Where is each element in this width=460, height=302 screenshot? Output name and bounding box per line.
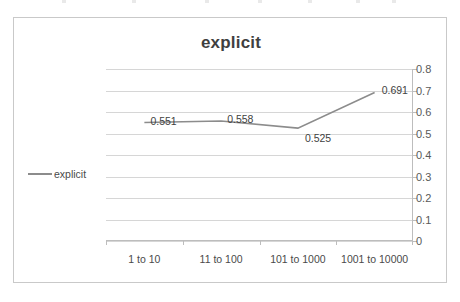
- x-axis-tick: [260, 241, 261, 245]
- y-axis-tick-label: 0.7: [416, 85, 431, 97]
- data-point-label: 0.558: [227, 113, 253, 125]
- y-axis-tick-label: 0.4: [416, 149, 431, 161]
- data-point-label: 0.691: [382, 84, 408, 96]
- y-axis-tick-label: 0.5: [416, 128, 431, 140]
- chart-title: explicit: [14, 33, 448, 53]
- y-axis-labels: 0.80.70.60.50.40.30.20.10: [416, 69, 450, 241]
- series-explicit: [106, 69, 413, 241]
- cropped-text-artifacts: [0, 0, 460, 12]
- y-axis-tick-label: 0.1: [416, 214, 431, 226]
- x-axis-category-label: 1 to 10: [128, 253, 160, 265]
- y-axis-tick-label: 0.6: [416, 106, 431, 118]
- data-point-label: 0.525: [305, 132, 331, 144]
- plot-area: [106, 69, 413, 241]
- x-axis-labels: 1 to 1011 to 100101 to 10001001 to 10000: [106, 253, 413, 269]
- x-axis-tick: [336, 241, 337, 245]
- x-axis-tick: [106, 241, 107, 245]
- x-axis-category-label: 101 to 1000: [270, 253, 325, 265]
- legend-label-explicit: explicit: [54, 168, 86, 180]
- chart-container: explicit 0.80.70.60.50.40.30.20.10 1 to …: [13, 17, 447, 283]
- data-point-label: 0.551: [150, 115, 176, 127]
- y-axis-tick-label: 0.3: [416, 171, 431, 183]
- x-axis-tick: [412, 241, 413, 245]
- x-axis-tick: [183, 241, 184, 245]
- legend-line-icon: [28, 173, 52, 175]
- x-axis-category-label: 11 to 100: [200, 253, 243, 265]
- x-axis-category-label: 1001 to 10000: [341, 253, 408, 265]
- y-axis-tick-label: 0.2: [416, 192, 431, 204]
- chart-legend: explicit: [28, 168, 86, 180]
- y-axis-tick-label: 0: [416, 235, 422, 247]
- y-axis-tick-label: 0.8: [416, 63, 431, 75]
